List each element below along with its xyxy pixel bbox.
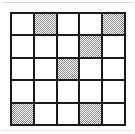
grid-cell-r1-c2 <box>35 14 56 34</box>
grid-cell-r3-c4 <box>80 59 101 79</box>
grid-cell-r2-c4 <box>80 36 101 56</box>
grid-cell-r2-c1 <box>12 36 33 56</box>
grid-cell-r1-c5 <box>103 14 124 34</box>
grid-cell-r5-c1 <box>12 104 33 124</box>
grid-cell-r3-c5 <box>103 59 124 79</box>
grid-figure <box>0 0 135 134</box>
grid-cell-r5-c4 <box>80 104 101 124</box>
grid-cell-r4-c5 <box>103 81 124 101</box>
grid-5x5 <box>10 12 126 126</box>
grid-cell-r1-c1 <box>12 14 33 34</box>
bottom-rule-line <box>2 130 133 131</box>
grid-cell-r5-c3 <box>58 104 79 124</box>
grid-cell-r1-c4 <box>80 14 101 34</box>
grid-cell-r2-c5 <box>103 36 124 56</box>
grid-cell-r3-c2 <box>35 59 56 79</box>
grid-cell-r2-c2 <box>35 36 56 56</box>
grid-cell-r3-c3 <box>58 59 79 79</box>
grid-cell-r4-c1 <box>12 81 33 101</box>
grid-cell-r4-c2 <box>35 81 56 101</box>
top-rule-line <box>2 2 133 3</box>
grid-cell-r3-c1 <box>12 59 33 79</box>
grid-cell-r4-c3 <box>58 81 79 101</box>
grid-cell-r2-c3 <box>58 36 79 56</box>
grid-cell-r4-c4 <box>80 81 101 101</box>
grid-cell-r5-c5 <box>103 104 124 124</box>
grid-cell-r5-c2 <box>35 104 56 124</box>
grid-cell-r1-c3 <box>58 14 79 34</box>
